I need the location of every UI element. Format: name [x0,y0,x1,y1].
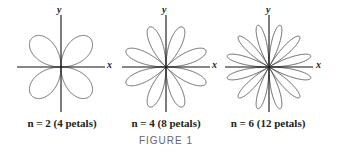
panel-1-caption: n = 2 (4 petals) [27,117,96,129]
panel-2-x-label: x [212,59,217,70]
panel-3-y-label: y [266,4,270,15]
panel-2-caption: n = 4 (8 petals) [131,117,200,129]
figure-label: FIGURE 1 [139,135,193,146]
panel-1-y-label: y [57,4,61,15]
panel-3-caption: n = 6 (12 petals) [231,117,306,129]
panel-3-x-label: x [316,59,321,70]
rose-curves-diagram [0,0,339,154]
rose-panel-2 [122,15,210,112]
panel-1-x-label: x [107,59,112,70]
rose-panel-1 [17,15,105,112]
panel-2-y-label: y [162,4,166,15]
rose-panel-3 [225,15,313,112]
